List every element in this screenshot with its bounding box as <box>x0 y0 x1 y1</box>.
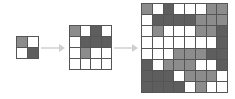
grid-cell <box>70 37 80 47</box>
grid-cell <box>217 82 227 92</box>
grid-cell <box>217 71 227 81</box>
grid-cell <box>207 49 217 59</box>
grid-cell <box>142 82 152 92</box>
grid-cell <box>164 4 174 14</box>
grid-cell <box>207 4 217 14</box>
grid-cell <box>142 60 152 70</box>
grid-cell <box>185 37 195 47</box>
grid-cell <box>102 59 112 69</box>
grid-cell <box>153 49 163 59</box>
grid-cell <box>207 82 217 92</box>
arrow-right-icon <box>114 47 136 49</box>
grid-cell <box>164 71 174 81</box>
grid-cell <box>174 4 184 14</box>
grid-cell <box>153 60 163 70</box>
grid-cell <box>28 48 38 58</box>
grid-cell <box>153 26 163 36</box>
grid-cell <box>217 26 227 36</box>
grid-cell <box>28 37 38 47</box>
grid-cell <box>81 37 91 47</box>
grid-cell <box>207 15 217 25</box>
grid-cell <box>185 60 195 70</box>
grid-cell <box>153 15 163 25</box>
grid-cell <box>164 15 174 25</box>
grid-cell <box>217 49 227 59</box>
grid-cell <box>174 15 184 25</box>
grid-cell <box>81 59 91 69</box>
grid-8x8 <box>141 3 228 93</box>
grid-cell <box>207 60 217 70</box>
grid-4x4 <box>69 25 112 70</box>
grid-cell <box>70 48 80 58</box>
grid-cell <box>185 49 195 59</box>
grid-cell <box>196 26 206 36</box>
grid-cell <box>81 48 91 58</box>
grid-cell <box>164 26 174 36</box>
grid-cell <box>207 37 217 47</box>
grid-cell <box>153 82 163 92</box>
grid-cell <box>196 15 206 25</box>
grid-cell <box>142 71 152 81</box>
grid-cell <box>153 71 163 81</box>
arrow-right-icon <box>41 47 63 49</box>
grid-cell <box>91 48 101 58</box>
grid-cell <box>164 49 174 59</box>
grid-cell <box>142 37 152 47</box>
grid-cell <box>185 4 195 14</box>
grid-cell <box>91 37 101 47</box>
grid-cell <box>91 59 101 69</box>
grid-cell <box>217 37 227 47</box>
grid-cell <box>185 26 195 36</box>
grid-cell <box>142 4 152 14</box>
grid-cell <box>207 26 217 36</box>
grid-cell <box>217 15 227 25</box>
grid-cell <box>102 48 112 58</box>
grid-cell <box>196 71 206 81</box>
grid-cell <box>164 37 174 47</box>
grid-cell <box>196 60 206 70</box>
grid-cell <box>174 37 184 47</box>
grid-cell <box>196 49 206 59</box>
grid-cell <box>153 4 163 14</box>
grid-cell <box>174 71 184 81</box>
grid-cell <box>185 82 195 92</box>
grid-cell <box>196 37 206 47</box>
grid-cell <box>142 26 152 36</box>
grid-2x2 <box>16 36 39 59</box>
grid-cell <box>196 82 206 92</box>
grid-cell <box>70 26 80 36</box>
grid-cell <box>185 15 195 25</box>
grid-cell <box>17 48 27 58</box>
grid-cell <box>142 49 152 59</box>
grid-cell <box>217 4 227 14</box>
grid-cell <box>185 71 195 81</box>
grid-cell <box>70 59 80 69</box>
grid-cell <box>196 4 206 14</box>
grid-cell <box>142 15 152 25</box>
grid-cell <box>217 60 227 70</box>
grid-cell <box>102 26 112 36</box>
grid-cell <box>174 49 184 59</box>
grid-cell <box>17 37 27 47</box>
grid-cell <box>174 60 184 70</box>
grid-cell <box>81 26 91 36</box>
grid-cell <box>164 60 174 70</box>
grid-cell <box>102 37 112 47</box>
grid-cell <box>174 26 184 36</box>
grid-cell <box>207 71 217 81</box>
grid-cell <box>164 82 174 92</box>
grid-cell <box>174 82 184 92</box>
grid-cell <box>153 37 163 47</box>
grid-cell <box>91 26 101 36</box>
